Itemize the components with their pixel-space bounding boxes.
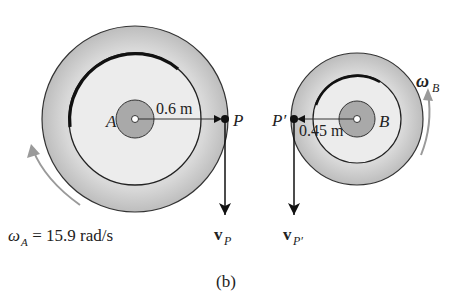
omega-a-symbol: ω: [8, 226, 20, 245]
omega-b-symbol: ω: [416, 71, 429, 91]
gear-a-axle: [132, 116, 139, 123]
gear-a-radius-label: 0.6 m: [156, 100, 193, 117]
gear-a-center-label: A: [105, 112, 117, 131]
gear-b-radius-label: 0.45 m: [299, 122, 344, 139]
figure-caption: (b): [216, 272, 236, 291]
velocity-p-label: v: [214, 225, 223, 244]
gear-a: [42, 26, 231, 215]
velocity-p-prime-subscript: P′: [292, 234, 303, 248]
gear-b-axle: [354, 116, 361, 123]
gear-b-center-label: B: [379, 112, 390, 131]
omega-a-value: = 15.9 rad/s: [28, 226, 113, 245]
velocity-p-prime-label: v: [283, 225, 292, 244]
omega-b-subscript: B: [432, 81, 440, 95]
point-p-label: P: [232, 111, 243, 130]
gear-diagram: A 0.6 m P v P v P′ ω A = 15.9 rad/s P′ 0…: [0, 0, 449, 291]
velocity-p-subscript: P: [223, 234, 232, 248]
point-p-prime-label: P′: [271, 111, 286, 130]
omega-a-subscript: A: [20, 236, 28, 248]
omega-a-arrowhead: [27, 144, 40, 158]
